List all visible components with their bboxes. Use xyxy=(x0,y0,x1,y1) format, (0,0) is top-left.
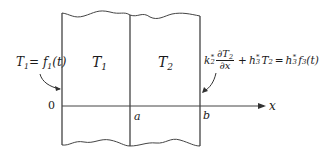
x-axis-label: x xyxy=(269,100,276,112)
origin-label: 0 xyxy=(48,100,55,111)
outer-position-label: b xyxy=(203,110,210,121)
region-2-label: T2 xyxy=(158,55,173,69)
left-bc-arrowhead-icon xyxy=(55,86,61,91)
top-break-line xyxy=(62,11,200,19)
derivative-fraction: ∂T2 ∂x xyxy=(216,49,234,71)
bottom-break-line xyxy=(62,139,200,146)
left-bc-leader-arrow xyxy=(40,74,60,89)
x-axis-arrowhead-icon xyxy=(258,103,266,109)
right-bc-arrowhead-icon xyxy=(202,87,208,93)
left-boundary-condition: T1= f1(t) xyxy=(16,56,66,68)
slab-diagram xyxy=(0,0,330,156)
right-boundary-condition: k2* ∂T2 ∂x + h3* T2 = h3* f3(t) xyxy=(204,49,319,71)
region-1-label: T1 xyxy=(92,55,107,69)
interface-position-label: a xyxy=(134,111,141,122)
